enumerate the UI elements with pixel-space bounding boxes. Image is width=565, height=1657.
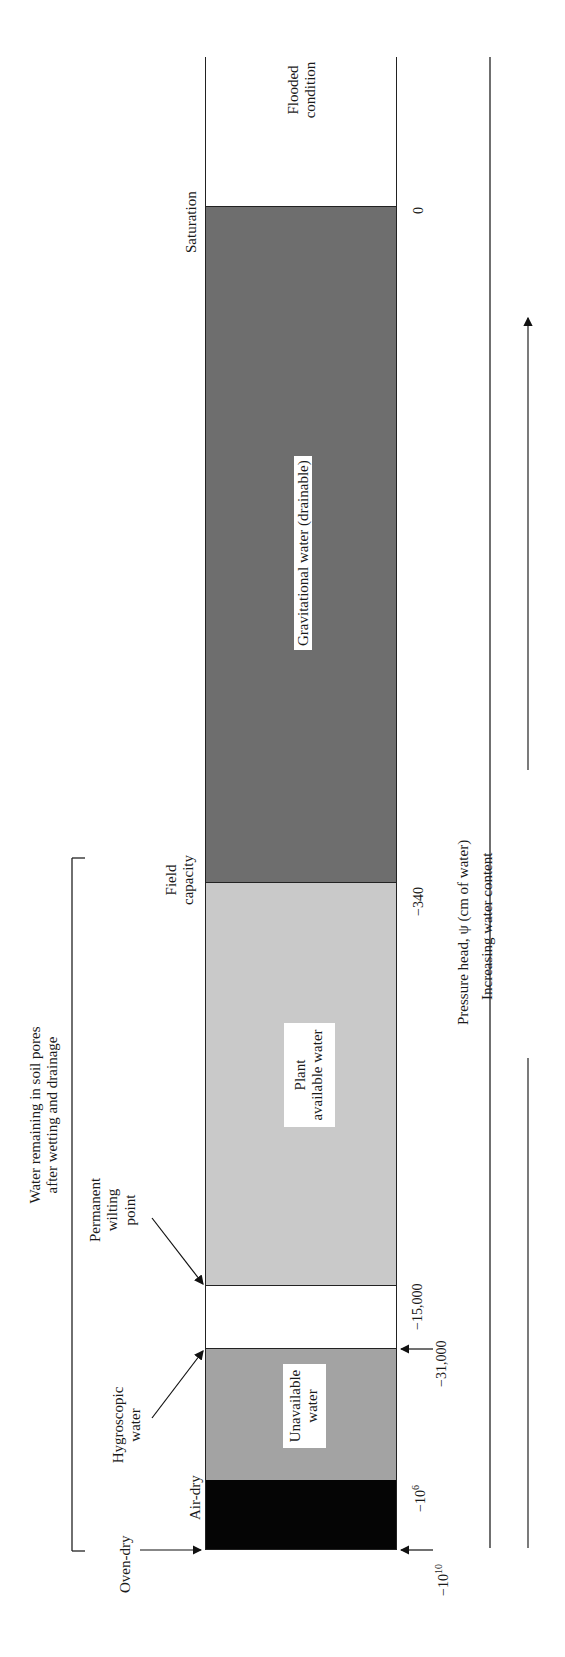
annotation-lines <box>0 0 565 1657</box>
bracket-icon <box>72 858 85 1551</box>
arrow-wilting-icon <box>152 1218 203 1284</box>
arrow-hygroscopic-icon <box>152 1351 203 1418</box>
